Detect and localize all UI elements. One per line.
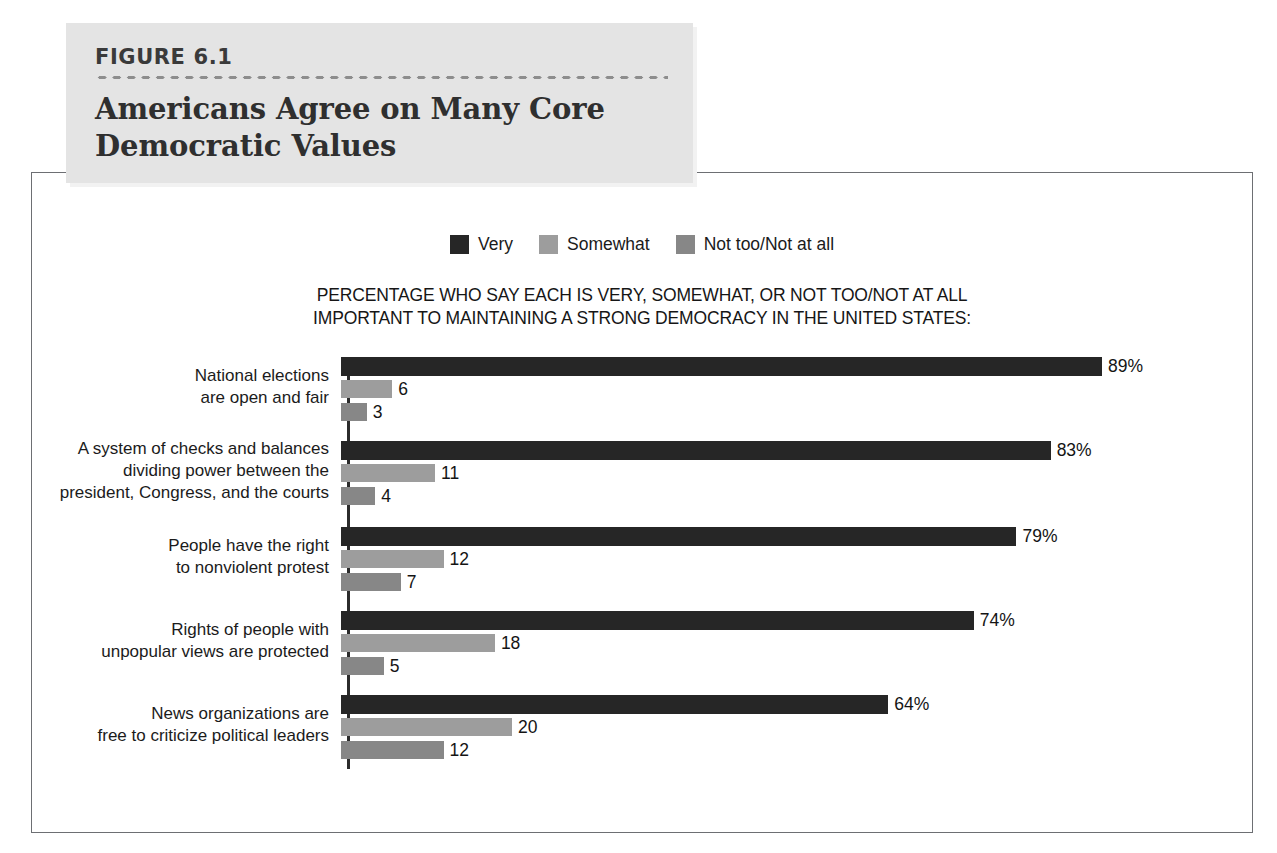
dotted-rule-divider — [95, 75, 668, 80]
page-title: Americans Agree on Many Core Democratic … — [95, 91, 667, 166]
figure-title-plate: FIGURE 6.1 Americans Agree on Many Core … — [66, 23, 693, 183]
figure-title-line-2: Democratic Values — [95, 128, 667, 165]
figure-title-line-1: Americans Agree on Many Core — [95, 91, 667, 128]
figure-number: FIGURE 6.1 — [95, 47, 667, 68]
figure-border-frame — [31, 172, 1253, 833]
